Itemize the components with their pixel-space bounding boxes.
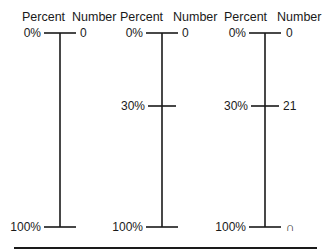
tick-30-percent: 30% (121, 99, 145, 113)
number-header: Number (173, 10, 217, 24)
tick-0-percent: 0% (229, 26, 247, 40)
tick-100-percent: 100% (10, 220, 41, 234)
tick-30-number: 21 (283, 99, 297, 113)
tick-0-percent: 0% (126, 26, 144, 40)
tick-0-number: 0 (80, 26, 87, 40)
tick-100-percent: 100% (112, 220, 143, 234)
panel-2: Percent Number 0% 0 30% 100% (112, 10, 217, 234)
tick-0-number: 0 (182, 26, 189, 40)
panel-1: Percent Number 0% 0 100% (10, 10, 116, 234)
tick-0-percent: 0% (24, 26, 42, 40)
percent-number-diagram: Percent Number 0% 0 100% Percent Number … (0, 0, 326, 251)
panel-3: Percent Number 0% 0 30% 21 100% ∩ (215, 10, 321, 234)
tick-100-number: ∩ (286, 220, 295, 234)
percent-header: Percent (224, 10, 268, 24)
tick-100-percent: 100% (215, 220, 246, 234)
number-header: Number (277, 10, 321, 24)
tick-0-number: 0 (286, 26, 293, 40)
tick-30-percent: 30% (224, 99, 248, 113)
percent-header: Percent (120, 10, 164, 24)
number-header: Number (72, 10, 116, 24)
percent-header: Percent (22, 10, 66, 24)
